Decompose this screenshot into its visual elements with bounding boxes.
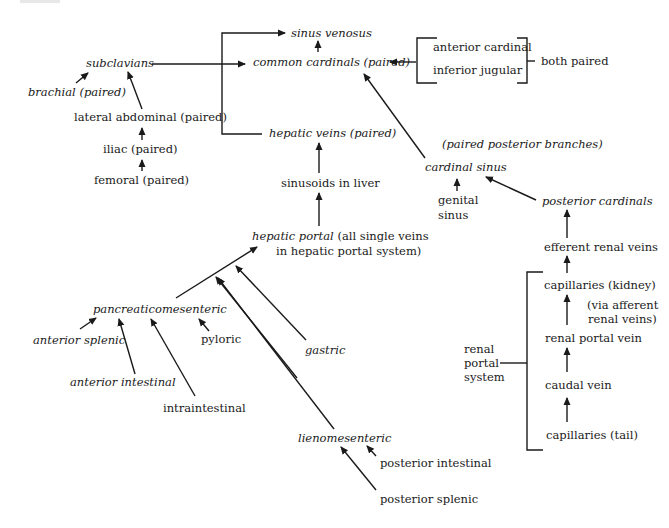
posterior-cardinals-arrow <box>486 177 536 200</box>
hepatic-to-sinus-connector <box>222 33 285 134</box>
node-iliac: iliac (paired) <box>103 142 178 156</box>
node-inferior-jugular: inferior jugular <box>433 63 522 77</box>
node-caudal-vein: caudal vein <box>545 378 612 392</box>
hepatic-portal-name: hepatic portal <box>252 229 334 243</box>
intraintestinal-to-portal-arrow <box>216 277 297 378</box>
label-via-afferent-line2: renal veins) <box>588 312 657 326</box>
label-paired-posterior-branches: (paired posterior branches) <box>442 137 603 151</box>
node-gastric: gastric <box>305 343 345 357</box>
node-hepatic-portal: hepatic portal (all single veins <box>252 229 429 243</box>
label-renal-portal-system-line3: system <box>464 370 505 384</box>
node-lienomesenteric: lienomesenteric <box>298 431 391 445</box>
label-renal-portal-system-line2: portal <box>464 356 499 370</box>
node-posterior-intestinal: posterior intestinal <box>380 456 492 470</box>
node-efferent-renal-veins: efferent renal veins <box>544 240 658 254</box>
gastric-arrow <box>236 266 306 340</box>
node-genital-sinus-line2: sinus <box>438 208 468 222</box>
arrow-layer <box>0 0 669 528</box>
lateral-abdominal-arrow <box>128 72 142 109</box>
pancreaticomesenteric-arrow <box>176 247 257 298</box>
label-renal-portal-system-line1: renal <box>464 342 494 356</box>
node-genital-sinus-line1: genital <box>438 193 478 207</box>
node-posterior-cardinals: posterior cardinals <box>542 194 653 208</box>
hepatic-portal-note: (all single veins <box>334 229 429 243</box>
node-pyloric: pyloric <box>201 332 241 346</box>
node-lateral-abdominal: lateral abdominal (paired) <box>74 110 227 124</box>
posterior-splenic-arrow <box>341 447 376 490</box>
node-anterior-splenic: anterior splenic <box>33 333 125 347</box>
label-both-paired: both paired <box>541 54 609 68</box>
cardinal-sinus-arrow <box>364 74 425 158</box>
brachial-arrow <box>76 73 88 83</box>
node-hepatic-veins: hepatic veins (paired) <box>269 126 396 140</box>
node-femoral: femoral (paired) <box>94 173 189 187</box>
node-brachial: brachial (paired) <box>28 85 126 99</box>
node-renal-portal-vein: renal portal vein <box>545 331 642 345</box>
node-pancreaticomesenteric: pancreaticomesenteric <box>93 302 227 316</box>
node-cardinal-sinus: cardinal sinus <box>425 160 507 174</box>
node-intraintestinal: intraintestinal <box>163 401 246 415</box>
node-sinusoids-in-liver: sinusoids in liver <box>281 176 380 190</box>
node-anterior-cardinal: anterior cardinal <box>433 40 532 54</box>
node-sinus-venosus: sinus venosus <box>291 26 372 40</box>
node-capillaries-tail: capillaries (tail) <box>546 428 638 442</box>
posterior-intestinal-arrow <box>367 446 376 456</box>
label-via-afferent-line1: (via afferent <box>587 298 658 312</box>
node-common-cardinals: common cardinals (paired) <box>253 55 410 69</box>
pyloric-arrow <box>199 319 209 331</box>
node-anterior-intestinal: anterior intestinal <box>70 375 176 389</box>
renal-portal-bracket <box>527 272 543 450</box>
hepatic-portal-note-line2: in hepatic portal system) <box>276 244 421 258</box>
node-posterior-splenic: posterior splenic <box>380 492 478 506</box>
node-subclavians: subclavians <box>86 56 154 70</box>
node-capillaries-kidney: capillaries (kidney) <box>544 278 656 292</box>
anterior-splenic-arrow <box>80 318 96 329</box>
